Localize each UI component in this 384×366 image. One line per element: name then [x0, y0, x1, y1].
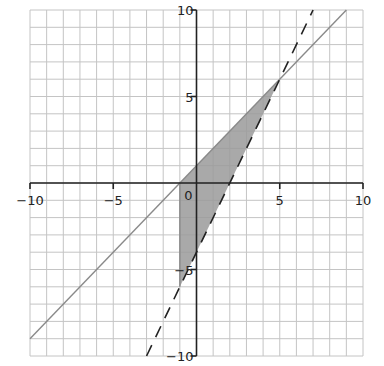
x-tick-label: −10	[16, 193, 43, 208]
y-tick-label: 5	[185, 90, 193, 105]
x-tick-label: 10	[355, 193, 372, 208]
origin-label: 0	[184, 188, 192, 203]
y-tick-label: 10	[177, 3, 194, 18]
x-tick-label: 5	[276, 193, 284, 208]
line-y-x-1	[30, 10, 346, 339]
y-tick-label: −5	[174, 263, 193, 278]
graph: −10−5510105−5−100	[0, 0, 384, 366]
y-tick-label: −10	[166, 349, 193, 364]
x-tick-label: −5	[104, 193, 123, 208]
